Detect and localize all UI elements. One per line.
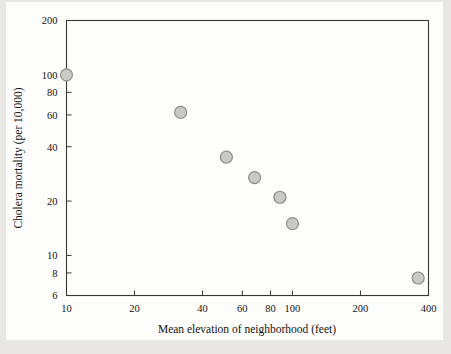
x-axis-title: Mean elevation of neighborhood (feet) [158,323,336,336]
data-point-marker [249,172,261,184]
y-tick-label: 80 [47,87,58,98]
x-tick-label: 400 [421,303,437,314]
y-tick-label: 6 [52,290,57,301]
x-axis-tick-labels: 1020406080100200400 [61,303,436,314]
x-tick-label: 80 [265,303,276,314]
data-point-marker [412,272,424,284]
y-tick-label: 40 [47,142,58,153]
x-tick-label: 100 [285,303,301,314]
x-axis-ticks [67,291,429,296]
y-axis-ticks [67,21,72,296]
y-tick-label: 10 [47,250,58,261]
y-tick-label: 100 [42,70,58,81]
scatter-plot: 1020406080100200400 681020406080100200 M… [0,0,451,354]
y-tick-label: 20 [47,196,58,207]
plot-frame [67,21,429,296]
data-point-marker [175,106,187,118]
x-tick-label: 60 [237,303,248,314]
x-tick-label: 20 [129,303,140,314]
data-point-marker [61,69,73,81]
y-tick-label: 8 [52,268,57,279]
x-tick-label: 200 [353,303,369,314]
y-tick-label: 200 [42,15,58,26]
x-tick-label: 40 [197,303,208,314]
figure-page: 1020406080100200400 681020406080100200 M… [0,0,451,354]
data-point-marker [286,218,298,230]
x-tick-label: 10 [61,303,72,314]
y-axis-title: Cholera mortality (per 10,000) [12,87,25,228]
y-tick-label: 60 [47,110,58,121]
data-points [61,69,425,284]
data-point-marker [220,151,232,163]
y-axis-tick-labels: 681020406080100200 [42,15,58,301]
data-point-marker [274,191,286,203]
